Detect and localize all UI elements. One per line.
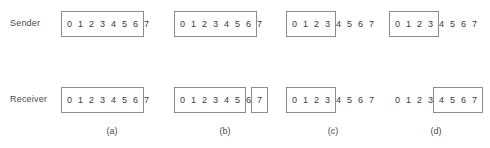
sequence-cell: 0 xyxy=(64,87,75,113)
sequence-cell: 0 xyxy=(289,11,300,37)
sequence-cell: 4 xyxy=(221,11,232,37)
sequence-cell: 3 xyxy=(425,11,436,37)
sequence-cell: 7 xyxy=(141,87,152,113)
sequence-cell: 5 xyxy=(119,11,130,37)
sequence-cell: 0 xyxy=(289,87,300,113)
sequence-cell: 7 xyxy=(254,87,265,113)
sequence-cell: 6 xyxy=(355,87,366,113)
sequence-cell: 0 xyxy=(177,11,188,37)
sequence-cell: 2 xyxy=(414,87,425,113)
sequence-cell: 3 xyxy=(97,87,108,113)
row-label-receiver: Receiver xyxy=(10,94,47,104)
sequence-cell: 2 xyxy=(199,11,210,37)
sequence-cell: 6 xyxy=(130,87,141,113)
panel-caption: (d) xyxy=(431,126,442,136)
sequence-cell: 3 xyxy=(322,87,333,113)
sequence-strip-receiver: 01234567 xyxy=(177,87,265,113)
sequence-cell: 5 xyxy=(447,87,458,113)
sequence-cell: 2 xyxy=(86,87,97,113)
sequence-cell: 5 xyxy=(344,87,355,113)
sequence-cell: 6 xyxy=(458,11,469,37)
sequence-cell: 2 xyxy=(414,11,425,37)
sequence-cell: 1 xyxy=(188,11,199,37)
sequence-cell: 5 xyxy=(344,11,355,37)
sequence-cell: 7 xyxy=(254,11,265,37)
sequence-cell: 3 xyxy=(210,11,221,37)
sequence-strip-receiver: 01234567 xyxy=(289,87,377,113)
sequence-cell: 1 xyxy=(403,11,414,37)
sequence-cell: 4 xyxy=(221,87,232,113)
sequence-cell: 2 xyxy=(86,11,97,37)
sequence-cell: 6 xyxy=(243,87,254,113)
sequence-cell: 6 xyxy=(243,11,254,37)
sequence-cell: 2 xyxy=(311,87,322,113)
sequence-cell: 1 xyxy=(188,87,199,113)
sequence-cell: 7 xyxy=(366,11,377,37)
sequence-cell: 4 xyxy=(436,87,447,113)
sequence-strip-receiver: 01234567 xyxy=(392,87,480,113)
sequence-cell: 7 xyxy=(469,87,480,113)
sequence-cell: 6 xyxy=(355,11,366,37)
sequence-cell: 4 xyxy=(108,11,119,37)
sequence-cell: 7 xyxy=(469,11,480,37)
sequence-cell: 7 xyxy=(141,11,152,37)
panel-caption: (b) xyxy=(220,126,231,136)
sequence-cell: 1 xyxy=(300,11,311,37)
sequence-cell: 1 xyxy=(75,11,86,37)
sequence-cell: 1 xyxy=(300,87,311,113)
sequence-strip-sender: 01234567 xyxy=(64,11,152,37)
sequence-cell: 1 xyxy=(403,87,414,113)
sequence-cell: 0 xyxy=(64,11,75,37)
sequence-cell: 0 xyxy=(177,87,188,113)
sequence-cell: 6 xyxy=(130,11,141,37)
sliding-window-figure: Sender Receiver 0123456701234567(a)01234… xyxy=(0,0,490,148)
sequence-cell: 1 xyxy=(75,87,86,113)
sequence-strip-receiver: 01234567 xyxy=(64,87,152,113)
sequence-cell: 2 xyxy=(199,87,210,113)
sequence-cell: 4 xyxy=(436,11,447,37)
sequence-cell: 4 xyxy=(108,87,119,113)
sequence-cell: 3 xyxy=(210,87,221,113)
sequence-cell: 5 xyxy=(232,87,243,113)
sequence-cell: 3 xyxy=(322,11,333,37)
sequence-cell: 0 xyxy=(392,11,403,37)
sequence-strip-sender: 01234567 xyxy=(177,11,265,37)
panel-caption: (a) xyxy=(107,126,118,136)
panel-caption: (c) xyxy=(328,126,339,136)
sequence-cell: 4 xyxy=(333,87,344,113)
sequence-cell: 0 xyxy=(392,87,403,113)
sequence-cell: 2 xyxy=(311,11,322,37)
sequence-strip-sender: 01234567 xyxy=(392,11,480,37)
sequence-cell: 3 xyxy=(425,87,436,113)
row-label-sender: Sender xyxy=(10,18,40,28)
sequence-cell: 7 xyxy=(366,87,377,113)
sequence-cell: 6 xyxy=(458,87,469,113)
sequence-strip-sender: 01234567 xyxy=(289,11,377,37)
sequence-cell: 4 xyxy=(333,11,344,37)
sequence-cell: 3 xyxy=(97,11,108,37)
sequence-cell: 5 xyxy=(119,87,130,113)
sequence-cell: 5 xyxy=(447,11,458,37)
sequence-cell: 5 xyxy=(232,11,243,37)
